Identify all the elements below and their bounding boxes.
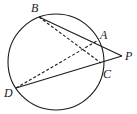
label-b: B [31, 1, 39, 15]
label-a: A [99, 28, 108, 42]
chord-da-dashed [16, 41, 97, 88]
label-c: C [103, 67, 112, 81]
geometry-diagram: B A C D P [0, 0, 137, 114]
label-d: D [3, 86, 13, 100]
circle [8, 14, 104, 110]
label-p: P [124, 49, 133, 63]
secant-pab [39, 17, 122, 56]
